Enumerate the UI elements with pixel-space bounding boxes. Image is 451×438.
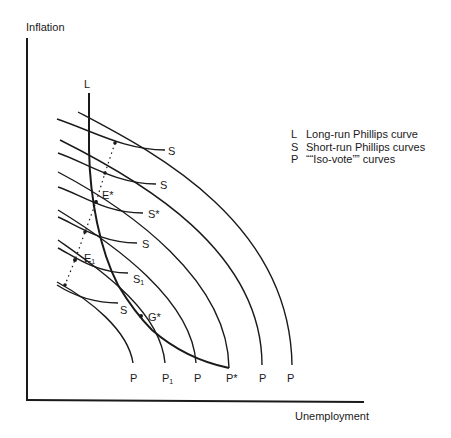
label-S1: S1: [133, 273, 144, 286]
legend-key: P: [291, 153, 306, 166]
iso-vote-curve-1: [57, 282, 133, 363]
label-P-curve-6: P: [287, 372, 294, 384]
label-P-curve-5: P: [259, 372, 266, 384]
label-S-curve-1: S: [168, 145, 175, 157]
label-E1: E1: [84, 252, 95, 265]
phillips-curve-diagram: L E* E1 G* S S S* S S1 S P P1 P P* P P: [0, 0, 451, 438]
legend-text: ““Iso-vote”” curves: [306, 153, 395, 166]
label-P-curve-1: P: [130, 372, 137, 384]
legend-key: S: [291, 141, 306, 154]
tangency-points: [63, 141, 143, 318]
label-L: L: [84, 78, 90, 90]
label-P-star: P*: [226, 372, 238, 384]
long-run-phillips-curve: [89, 93, 229, 368]
short-run-curve-s-star: [58, 187, 143, 213]
y-axis-label: Inflation: [26, 21, 65, 33]
short-run-curve-1: [57, 119, 165, 150]
legend-text: Short-run Phillips curves: [306, 141, 425, 154]
label-S-star: S*: [148, 208, 160, 220]
legend-row-iso-vote: P ““Iso-vote”” curves: [291, 153, 425, 166]
x-axis-label: Unemployment: [295, 410, 369, 422]
label-P1: P1: [162, 372, 173, 385]
label-S-curve-6: S: [120, 304, 127, 316]
label-S-curve-2: S: [160, 179, 167, 191]
label-E-star: E*: [102, 189, 114, 201]
legend: L Long-run Phillips curve S Short-run Ph…: [291, 128, 425, 166]
iso-vote-curve-p-star: [58, 172, 229, 368]
legend-key: L: [291, 128, 306, 141]
legend-text: Long-run Phillips curve: [306, 128, 418, 141]
x-axis: [26, 400, 364, 402]
legend-row-long-run: L Long-run Phillips curve: [291, 128, 425, 141]
legend-row-short-run: S Short-run Phillips curves: [291, 141, 425, 154]
label-S-curve-4: S: [142, 238, 149, 250]
iso-vote-curve-6: [78, 112, 292, 365]
iso-vote-curve-3: [58, 210, 196, 363]
label-G-star: G*: [148, 311, 162, 323]
label-P-curve-3: P: [194, 372, 201, 384]
